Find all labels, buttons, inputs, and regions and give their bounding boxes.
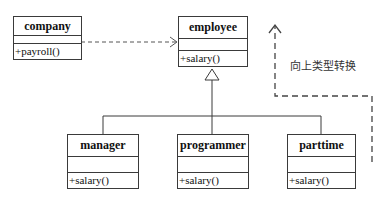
class-programmer: programmer +salary() (177, 134, 249, 189)
class-operations: +salary() (178, 173, 248, 188)
class-operations: +salary() (68, 173, 138, 188)
class-attributes (14, 36, 81, 44)
class-name: company (14, 17, 81, 36)
class-attributes (178, 157, 248, 173)
class-name: manager (68, 135, 138, 157)
generalization-triangle-icon (205, 69, 219, 80)
class-operations: +salary() (179, 51, 247, 66)
class-name: programmer (178, 135, 248, 157)
class-company: company +payroll() (13, 16, 82, 60)
upcast-label: 向上类型转换 (290, 57, 356, 73)
class-operations: +salary() (288, 173, 355, 188)
class-attributes (179, 39, 247, 51)
class-name: parttime (288, 135, 355, 157)
class-attributes (288, 157, 355, 173)
class-name: employee (179, 17, 247, 39)
class-employee: employee +salary() (178, 16, 248, 67)
class-attributes (68, 157, 138, 173)
class-parttime: parttime +salary() (287, 134, 356, 189)
class-operations: +payroll() (14, 44, 81, 59)
class-manager: manager +salary() (67, 134, 139, 189)
